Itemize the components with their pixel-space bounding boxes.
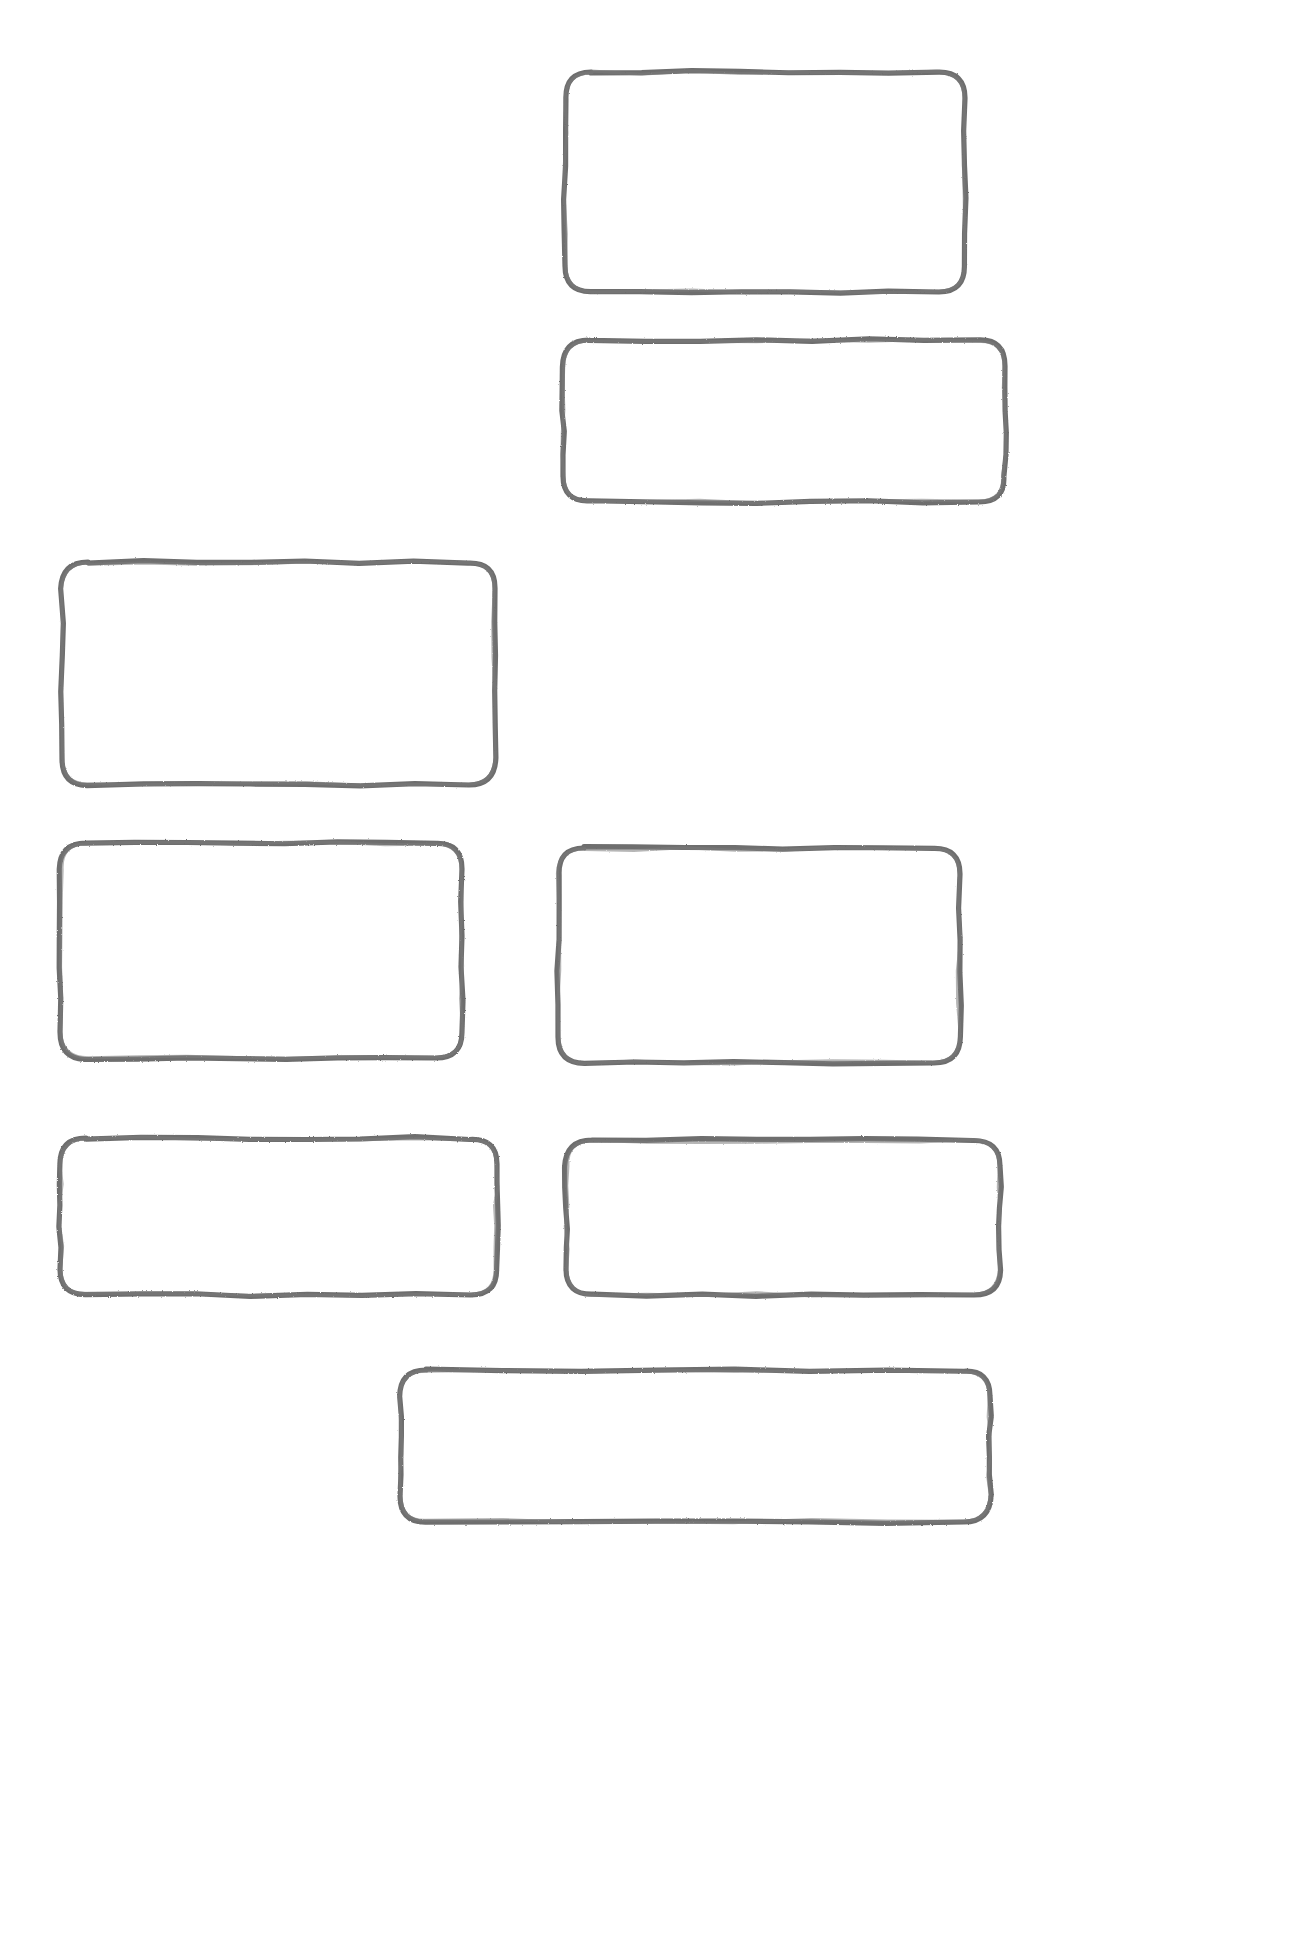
wireframe-box-8[interactable] [400,1370,990,1522]
wireframe-box-6[interactable] [60,1138,497,1295]
wireframe-box-5[interactable] [558,848,960,1063]
wireframe-box-3[interactable] [62,562,495,785]
wireframe-canvas [0,0,1309,1946]
wireframe-box-4[interactable] [60,843,462,1058]
wireframe-box-2[interactable] [563,340,1005,502]
wireframe-box-7[interactable] [566,1140,1000,1295]
wireframe-box-1[interactable] [565,72,965,292]
